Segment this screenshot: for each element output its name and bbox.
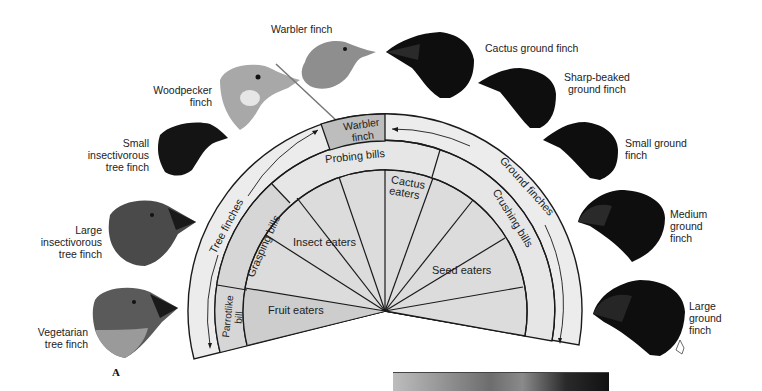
panel-label: A [112,366,120,378]
medium-ground-finch-label: Medium ground finch [670,208,707,244]
warbler-finch-label: Warbler finch [271,23,332,35]
large-ground-finch-label: Large ground finch [689,300,722,336]
photo-strip [393,372,609,391]
fruit-eaters-label: Fruit eaters [268,304,324,316]
small-ground-finch-label: Small ground finch [625,137,687,161]
parrotlike-bill-label: Parrotlike bill [220,295,246,339]
vegetarian-tree-finch-label: Vegetarian tree finch [20,326,88,350]
insect-eaters-label: Insect eaters [293,236,356,248]
cactus-ground-finch-label: Cactus ground finch [485,42,578,54]
woodpecker-finch-label: Woodpecker finch [150,84,212,108]
sharp-beaked-ground-finch-label: Sharp-beaked ground finch [564,71,630,95]
small-insectivorous-tree-finch-label: Small insectivorous tree finch [80,137,149,173]
seed-eaters-label: Seed eaters [432,264,491,276]
large-insectivorous-tree-finch-label: Large insectivorous tree finch [32,224,102,260]
